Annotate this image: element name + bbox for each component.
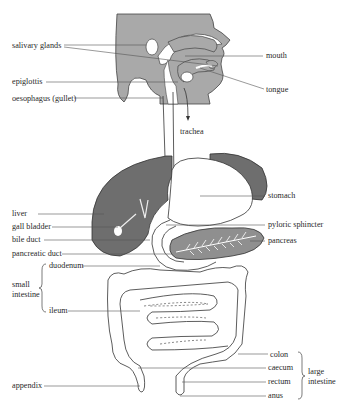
label-ileum: ileum [49,306,68,316]
label-oesophagus: oesophagus (gullet) [12,94,76,104]
salivary-gland [146,39,158,55]
large-intestine-brace [298,352,305,399]
label-tongue: tongue [266,85,288,95]
label-pancreas: pancreas [268,236,297,246]
label-rectum: rectum [268,377,291,387]
liver-shape [92,156,172,256]
label-bile-duct: bile duct [12,235,40,245]
label-appendix: appendix [12,381,42,391]
label-pyloric-sphincter: pyloric sphincter [268,220,323,230]
label-mouth: mouth [266,51,287,61]
digestive-system-diagram: salivary glands epiglottis oesophagus (g… [0,0,343,410]
label-salivary-glands: salivary glands [12,41,61,51]
diagram-drawing [0,0,343,410]
label-gall-bladder: gall bladder [12,222,51,232]
label-anus: anus [268,391,283,401]
label-epiglottis: epiglottis [12,77,42,87]
label-liver: liver [12,209,27,219]
label-stomach: stomach [268,191,295,201]
large-intestine-shape [108,266,249,395]
label-trachea: trachea [180,127,204,137]
label-large-intestine: large intestine [308,367,343,387]
epiglottis-shape [181,72,193,82]
label-caecum: caecum [268,363,293,373]
label-small-intestine: small intestine [12,280,52,300]
label-pancreatic-duct: pancreatic duct [12,249,62,259]
label-colon: colon [270,350,288,360]
label-duodenum: duodenum [49,261,84,271]
